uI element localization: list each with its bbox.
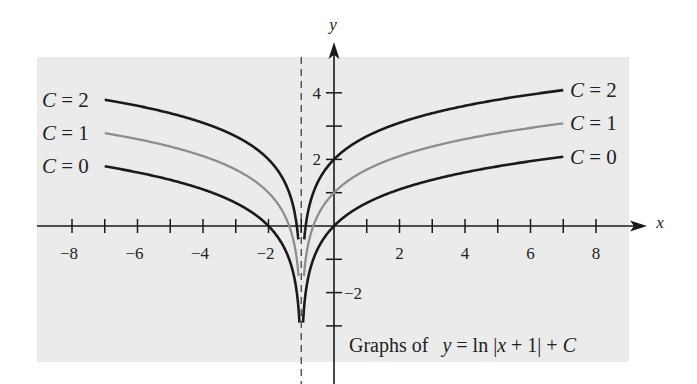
caption-C: C	[563, 334, 577, 356]
curve-label-value: = 1	[56, 121, 89, 145]
curve-label-right: C = 1	[570, 111, 617, 135]
curve-label-variable: C	[42, 88, 57, 112]
y-tick-label: −2	[344, 284, 362, 303]
curve-label-variable: C	[570, 145, 585, 169]
x-tick-label: 6	[526, 244, 535, 263]
curve-label-variable: C	[570, 78, 585, 102]
curve-label-right: C = 0	[570, 145, 617, 169]
curve-label-value: = 0	[584, 145, 617, 169]
y-axis-label: y	[327, 15, 337, 34]
curve-label-left: C = 1	[42, 121, 89, 145]
caption-x: x	[496, 334, 506, 356]
x-axis-label: x	[655, 213, 664, 232]
caption-prefix: Graphs of	[349, 334, 429, 357]
x-tick-label: 8	[592, 244, 601, 263]
chart-figure: −8−6−4−2246842−2 C = 2C = 2C = 1C = 1C =…	[0, 0, 697, 384]
curve-label-value: = 0	[56, 154, 89, 178]
y-tick-label: 4	[313, 84, 322, 103]
curve-label-variable: C	[42, 121, 57, 145]
x-tick-label: −4	[191, 244, 210, 263]
curve-label-right: C = 2	[570, 78, 617, 102]
caption-eq2: + 1| +	[506, 334, 563, 357]
chart-caption: Graphs of y = ln |x + 1| + C	[349, 334, 577, 357]
curve-label-value: = 1	[584, 111, 617, 135]
curve-label-left: C = 0	[42, 154, 89, 178]
curve-label-variable: C	[42, 154, 57, 178]
curve-label-value: = 2	[56, 88, 89, 112]
x-tick-label: −2	[256, 244, 274, 263]
caption-y: y	[440, 334, 451, 357]
caption-eq1: = ln |	[451, 334, 497, 357]
curve-label-variable: C	[570, 111, 585, 135]
x-tick-label: −6	[125, 244, 143, 263]
y-tick-label: 2	[313, 150, 322, 169]
x-tick-label: −8	[60, 244, 78, 263]
x-tick-label: 4	[461, 244, 470, 263]
x-tick-label: 2	[395, 244, 404, 263]
curve-label-value: = 2	[584, 78, 617, 102]
curve-label-left: C = 2	[42, 88, 89, 112]
